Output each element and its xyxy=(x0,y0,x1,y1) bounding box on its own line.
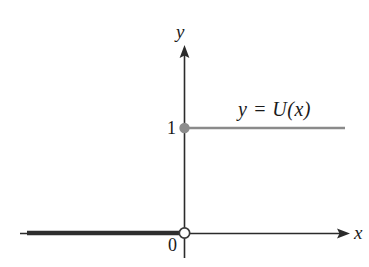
function-label: y = U(x) xyxy=(238,99,311,119)
y-axis-label: y xyxy=(176,22,184,41)
plot-canvas xyxy=(0,0,369,267)
step-function-figure: y x y = U(x) 1 0 xyxy=(0,0,369,267)
open-point-marker xyxy=(179,228,189,238)
filled-point-marker xyxy=(179,123,189,133)
x-axis-label: x xyxy=(354,223,362,242)
y-axis xyxy=(180,45,190,258)
origin-tick-label-zero: 0 xyxy=(168,236,177,254)
y-tick-label-one: 1 xyxy=(167,119,176,137)
